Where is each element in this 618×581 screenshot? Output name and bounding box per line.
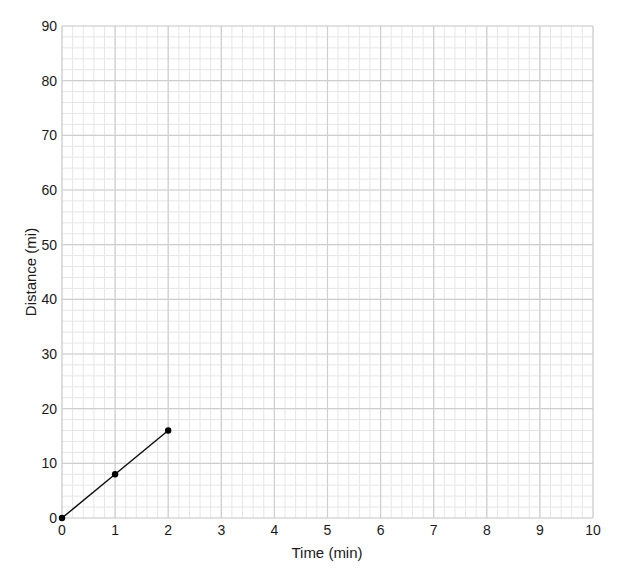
y-tick-label: 0 [49,510,57,526]
y-tick-label: 80 [41,73,57,89]
x-tick-label: 3 [217,522,225,538]
x-tick-label: 5 [324,522,332,538]
data-point [112,471,118,477]
y-tick-label: 50 [41,237,57,253]
x-tick-label: 6 [377,522,385,538]
y-tick-label: 20 [41,401,57,417]
data-point [59,515,65,521]
y-axis-ticks: 0102030405060708090 [41,18,57,526]
y-tick-label: 90 [41,18,57,34]
x-tick-label: 9 [536,522,544,538]
x-tick-label: 2 [164,522,172,538]
y-tick-label: 60 [41,182,57,198]
x-tick-label: 7 [430,522,438,538]
y-tick-label: 70 [41,127,57,143]
x-tick-label: 10 [585,522,601,538]
y-tick-label: 30 [41,346,57,362]
x-axis-label: Time (min) [291,544,362,561]
major-grid [62,26,593,518]
y-tick-label: 40 [41,291,57,307]
distance-time-chart: 012345678910 0102030405060708090 Time (m… [0,0,618,581]
x-tick-label: 1 [111,522,119,538]
x-tick-label: 4 [271,522,279,538]
x-axis-ticks: 012345678910 [58,522,601,538]
data-point [165,427,171,433]
y-tick-label: 10 [41,455,57,471]
x-tick-label: 8 [483,522,491,538]
y-axis-label: Distance (mi) [22,228,39,316]
x-tick-label: 0 [58,522,66,538]
